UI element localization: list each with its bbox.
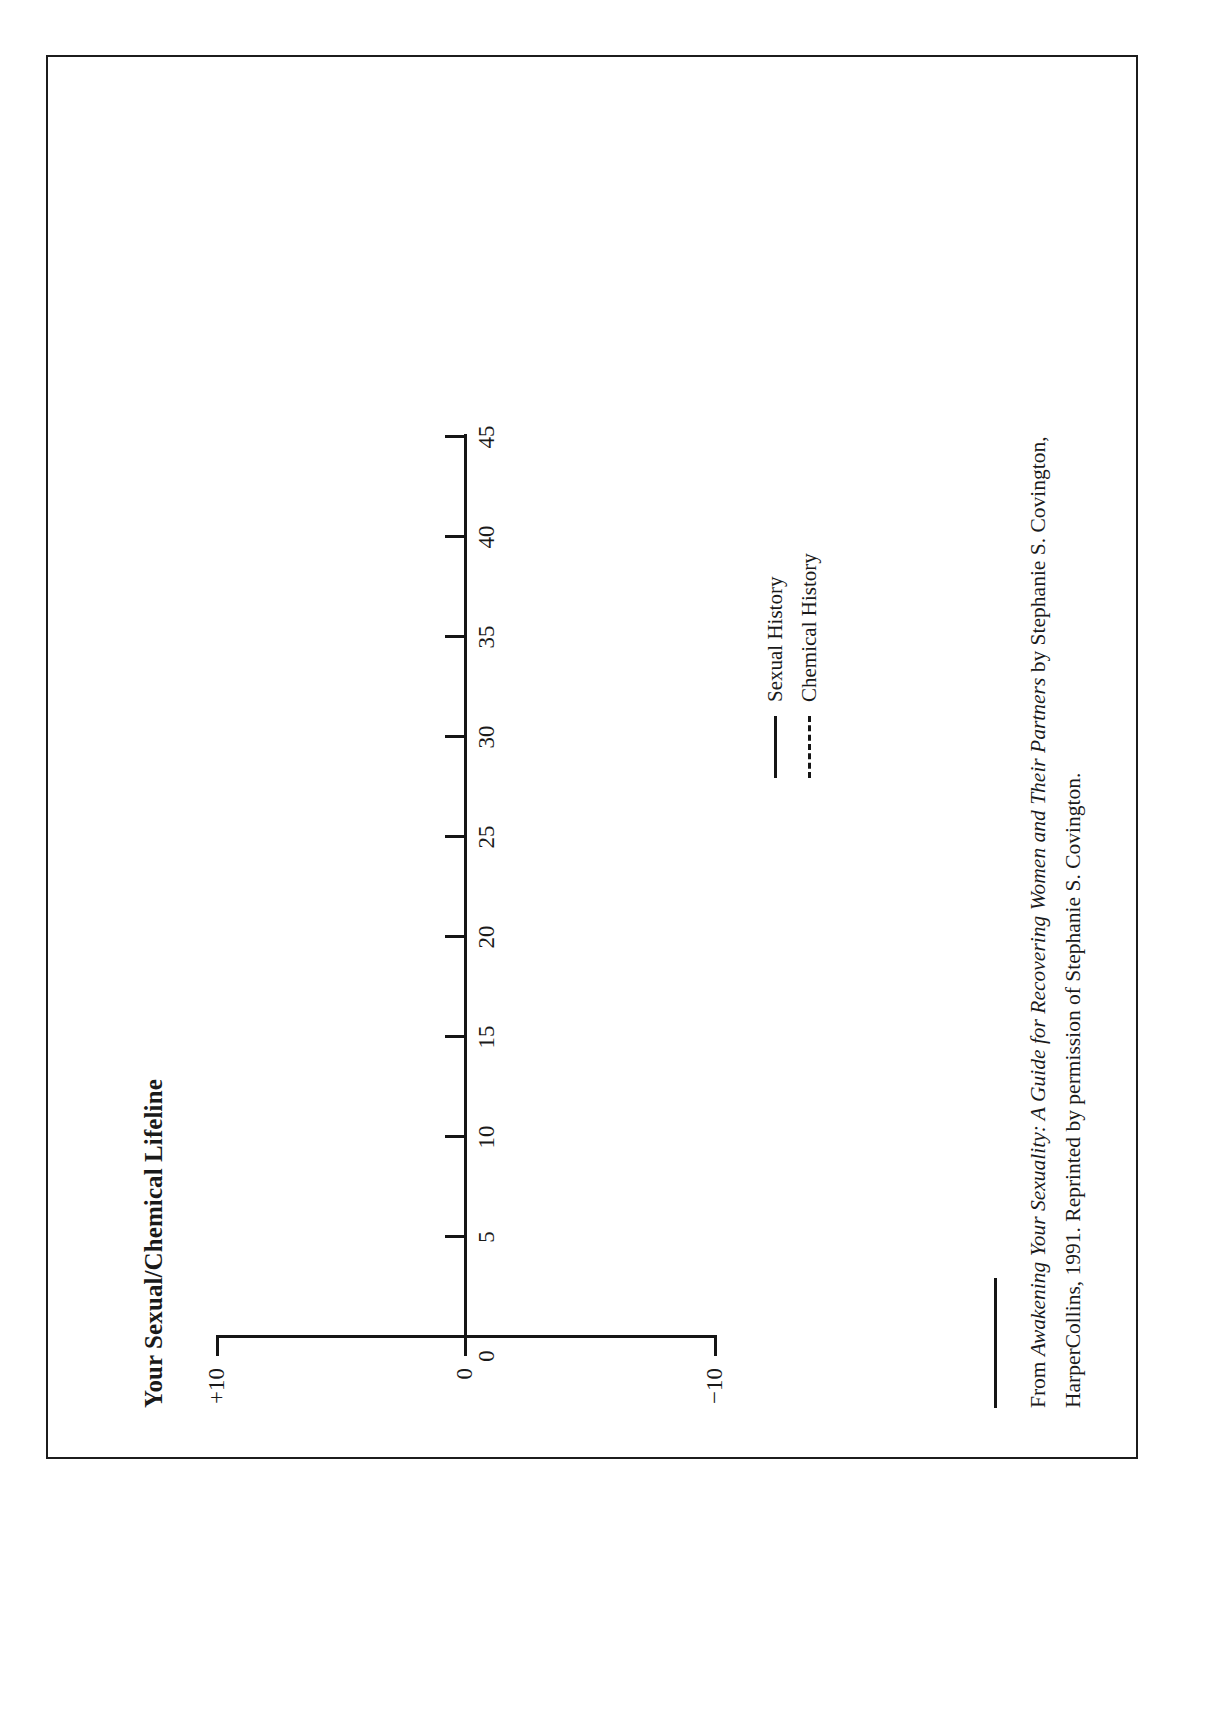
y-tick-minus10: [714, 1335, 717, 1356]
x-tick-30: [445, 735, 467, 738]
x-tick-15: [445, 1035, 467, 1038]
x-tick-label-30: 30: [474, 726, 500, 749]
legend-label-sexual-history: Sexual History: [763, 577, 788, 702]
x-tick-label-10: 10: [474, 1126, 500, 1149]
x-tick-25: [445, 835, 467, 838]
x-tick-label-40: 40: [474, 526, 500, 549]
x-tick-label-0: 0: [474, 1350, 500, 1362]
credit-text: From Awakening Your Sexuality: A Guide f…: [1021, 398, 1091, 1408]
x-tick-label-20: 20: [474, 926, 500, 949]
x-tick-20: [445, 935, 467, 938]
x-tick-40: [445, 535, 467, 538]
credit-book-title: Awakening Your Sexuality: A Guide for Re…: [1026, 678, 1050, 1356]
y-tick-zero: [464, 1335, 467, 1356]
x-tick-35: [445, 635, 467, 638]
legend-item-chemical-history: Chemical History: [792, 478, 826, 778]
y-tick-plus10: [216, 1335, 219, 1356]
x-tick-label-15: 15: [474, 1026, 500, 1049]
x-tick-45: [445, 435, 467, 438]
x-tick-10: [445, 1135, 467, 1138]
legend-label-chemical-history: Chemical History: [797, 553, 822, 702]
lifeline-chart: +10 0 −10 0 5 10 15 20 25: [198, 248, 898, 1428]
x-tick-5: [445, 1235, 467, 1238]
y-tick-label-zero: 0: [452, 1368, 478, 1380]
x-tick-label-5: 5: [474, 1231, 500, 1243]
x-tick-label-35: 35: [474, 626, 500, 649]
page-border: Your Sexual/Chemical Lifeline +10 0 −10: [46, 55, 1138, 1459]
year-axis-line: [464, 434, 467, 1338]
solid-line-key: [768, 716, 782, 778]
chart-legend: Sexual History Chemical History: [758, 478, 826, 778]
page-title: Your Sexual/Chemical Lifeline: [140, 1079, 168, 1408]
y-tick-label-plus10: +10: [204, 1368, 230, 1404]
x-tick-label-25: 25: [474, 826, 500, 849]
credit-prefix: From: [1026, 1356, 1050, 1408]
x-tick-label-45: 45: [474, 426, 500, 449]
dashed-line-key: [802, 716, 816, 778]
legend-item-sexual-history: Sexual History: [758, 478, 792, 778]
credit-divider: [994, 1278, 997, 1408]
rotated-figure-plane: Your Sexual/Chemical Lifeline +10 0 −10: [94, 112, 1186, 1516]
source-credit: From Awakening Your Sexuality: A Guide f…: [994, 318, 1091, 1408]
y-tick-label-minus10: −10: [702, 1368, 728, 1404]
